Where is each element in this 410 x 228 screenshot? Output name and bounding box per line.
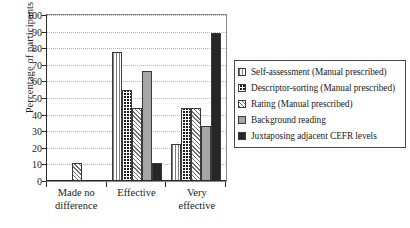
legend-swatch — [238, 100, 246, 108]
legend-label: Descriptor-sorting (Manual prescribed) — [251, 83, 395, 93]
legend-item: Background reading — [238, 112, 401, 128]
y-axis-tick-label: 40 — [20, 109, 42, 120]
bar — [171, 144, 181, 181]
y-axis-tick-label: 30 — [20, 126, 42, 137]
legend-swatch — [238, 132, 246, 140]
legend-swatch — [238, 84, 246, 92]
x-axis-category-label: Effective — [106, 186, 166, 212]
y-axis-tick-mark — [42, 115, 46, 116]
legend-label: Background reading — [251, 115, 326, 125]
legend-swatch — [238, 116, 246, 124]
y-axis-tick-mark — [42, 15, 46, 16]
bar — [122, 90, 132, 181]
y-axis-tick-label: 100 — [20, 10, 42, 21]
bar-groups — [47, 15, 226, 181]
y-axis-tick-label: 80 — [20, 43, 42, 54]
y-axis-tick-mark — [42, 48, 46, 49]
legend: Self-assessment (Manual prescribed)Descr… — [234, 60, 406, 148]
bar-group — [166, 15, 226, 181]
legend-item: Self-assessment (Manual prescribed) — [238, 64, 401, 80]
y-axis-tick-mark — [42, 164, 46, 165]
y-axis-tick-label: 90 — [20, 26, 42, 37]
x-axis-category-label-line: Effective — [106, 186, 166, 199]
x-axis-category-label-line: effective — [167, 199, 227, 212]
plot-area — [46, 14, 227, 182]
y-axis-tick-label: 10 — [20, 159, 42, 170]
bar — [72, 163, 82, 181]
bar — [112, 52, 122, 181]
y-axis-tick-label: 20 — [20, 142, 42, 153]
x-axis-category-label: Veryeffective — [167, 186, 227, 212]
y-axis-tick-label: 70 — [20, 59, 42, 70]
legend-label: Rating (Manual prescribed) — [251, 99, 352, 109]
legend-item: Juxtaposing adjacent CEFR levels — [238, 128, 401, 144]
legend-label: Self-assessment (Manual prescribed) — [251, 67, 387, 77]
x-axis-category-label-line: Made no — [46, 186, 106, 199]
x-axis-labels: Made nodifferenceEffectiveVeryeffective — [46, 186, 227, 212]
y-axis-tick-mark — [42, 131, 46, 132]
bar-group — [47, 15, 107, 181]
bar — [191, 108, 201, 181]
x-axis-category-label-line: Very — [167, 186, 227, 199]
bar-chart: Percentage of participants 0102030405060… — [0, 0, 410, 228]
x-axis-line — [47, 180, 226, 181]
legend-item: Descriptor-sorting (Manual prescribed) — [238, 80, 401, 96]
bar — [181, 108, 191, 181]
y-axis-tick-mark — [42, 65, 46, 66]
y-axis-tick-mark — [42, 32, 46, 33]
bar — [211, 33, 221, 181]
bar — [142, 71, 152, 181]
bar — [132, 108, 142, 181]
y-axis-tick-mark — [42, 148, 46, 149]
bar — [201, 126, 211, 181]
y-axis-tick-label: 0 — [20, 176, 42, 187]
y-axis-tick-label: 60 — [20, 76, 42, 87]
legend-label: Juxtaposing adjacent CEFR levels — [251, 131, 377, 141]
x-axis-category-label: Made nodifference — [46, 186, 106, 212]
y-axis-tick-mark — [42, 98, 46, 99]
y-axis-tick-label: 50 — [20, 93, 42, 104]
bar-group — [107, 15, 167, 181]
x-axis-category-label-line: difference — [46, 199, 106, 212]
bar — [152, 163, 162, 181]
legend-swatch — [238, 68, 246, 76]
legend-item: Rating (Manual prescribed) — [238, 96, 401, 112]
y-axis-tick-mark — [42, 81, 46, 82]
